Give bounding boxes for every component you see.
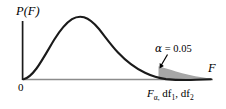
x-axis-label: F xyxy=(208,62,216,75)
alpha-annotation-label: α = 0.05 xyxy=(155,43,192,55)
f-distribution-figure: P(F) F 0 α = 0.05 Fα, df1, df2 xyxy=(0,0,226,109)
critical-df1-subscript: 1 xyxy=(171,93,175,102)
alpha-value: = 0.05 xyxy=(165,43,192,54)
origin-tick-label: 0 xyxy=(18,82,24,93)
critical-value-tick-label: Fα, df1, df2 xyxy=(147,88,194,99)
critical-f-symbol: F xyxy=(147,87,154,99)
critical-df2-label: df xyxy=(181,87,190,99)
y-axis-label: P(F) xyxy=(16,5,40,18)
critical-alpha-subscript: α, xyxy=(154,93,160,102)
critical-comma: , xyxy=(175,87,178,99)
alpha-symbol: α xyxy=(155,42,162,54)
shaded-alpha-region xyxy=(159,66,212,79)
critical-df2-subscript: 2 xyxy=(190,93,194,102)
